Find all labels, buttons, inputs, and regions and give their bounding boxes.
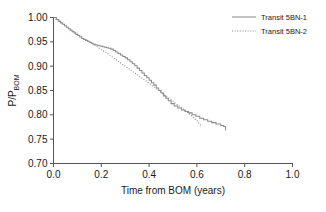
x-axis-title: Time from BOM (years) [121, 185, 225, 196]
y-axis: 0.700.750.800.850.900.951.00P/PBOM [7, 12, 54, 169]
y-tick-label: 0.90 [28, 61, 48, 72]
y-tick-label: 0.85 [28, 85, 48, 96]
chart-figure: 0.00.20.40.60.81.0Time from BOM (years)0… [0, 0, 326, 212]
axes-group [54, 18, 293, 164]
x-tick-label: 0.2 [94, 169, 108, 180]
x-tick-label: 0.8 [238, 169, 252, 180]
x-tick-label: 0.4 [142, 169, 156, 180]
y-tick-label: 0.80 [28, 109, 48, 120]
x-tick-label: 0.6 [190, 169, 204, 180]
y-tick-label: 0.75 [28, 134, 48, 145]
x-tick-label: 1.0 [286, 169, 300, 180]
data-series-group [54, 18, 226, 131]
x-tick-label: 0.0 [47, 169, 61, 180]
y-axis-title: P/PBOM [7, 74, 20, 106]
y-tick-label: 1.00 [28, 12, 48, 23]
legend: Transit 5BN-1Transit 5BN-2 [232, 13, 307, 36]
legend-label-1: Transit 5BN-1 [261, 13, 307, 22]
y-tick-label: 0.95 [28, 36, 48, 47]
series-line-1 [54, 18, 226, 131]
x-axis: 0.00.20.40.60.81.0Time from BOM (years) [47, 164, 300, 196]
line-chart: 0.00.20.40.60.81.0Time from BOM (years)0… [0, 0, 326, 212]
y-tick-label: 0.70 [28, 158, 48, 169]
axis-spines [54, 18, 293, 164]
legend-label-2: Transit 5BN-2 [261, 27, 307, 36]
